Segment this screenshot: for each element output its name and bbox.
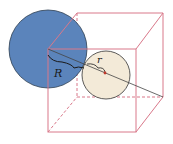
big-radius-label: R [53,67,62,80]
small-sphere [82,51,130,99]
center-point [104,72,107,75]
sphere-cube-diagram: R r [0,0,173,144]
